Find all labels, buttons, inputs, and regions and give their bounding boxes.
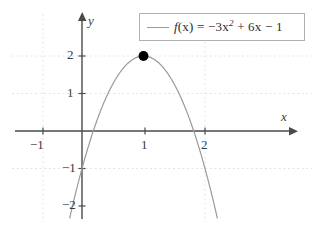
ytick-label-1: 1 xyxy=(67,85,74,101)
y-axis-label: y xyxy=(88,13,94,29)
legend-entry-label: f(x) = −3x2 + 6x − 1 xyxy=(174,18,283,35)
legend-line-swatch xyxy=(147,27,169,28)
xtick-label-2: 2 xyxy=(201,137,208,153)
legend: f(x) = −3x2 + 6x − 1 xyxy=(139,13,305,41)
ytick-label-2: 2 xyxy=(67,47,74,63)
figure-canvas: −1 1 2 −2 −1 1 2 x y f(x) = −3x2 + 6x − … xyxy=(0,0,320,226)
legend-fn-arg: (x) xyxy=(178,20,194,35)
ytick-label-neg1: −1 xyxy=(62,160,76,176)
gridlines xyxy=(12,14,312,222)
ytick-label-neg2: −2 xyxy=(62,197,76,213)
xtick-label-1: 1 xyxy=(141,137,148,153)
y-axis-arrowhead xyxy=(78,12,86,21)
xtick-label-neg1: −1 xyxy=(30,137,44,153)
legend-equals: = xyxy=(197,20,205,35)
vertex-point-marker xyxy=(139,51,149,61)
legend-exponent: 2 xyxy=(229,18,234,28)
legend-term-c: − 1 xyxy=(265,20,283,35)
legend-term-a: −3x xyxy=(208,20,229,35)
x-axis-arrowhead xyxy=(289,127,298,135)
x-axis-label: x xyxy=(281,109,287,125)
legend-term-b: + 6x xyxy=(237,20,261,35)
